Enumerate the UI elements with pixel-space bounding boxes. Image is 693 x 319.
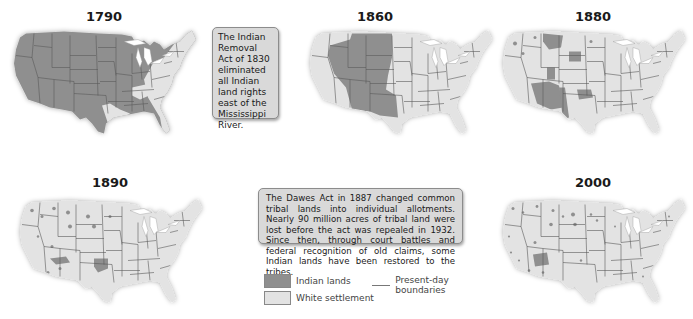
map-1880-us-map xyxy=(493,26,693,141)
map-1890-panel: 1890 xyxy=(10,165,210,315)
boundary-line-sample xyxy=(372,285,390,286)
map-1880-title: 1880 xyxy=(493,9,693,24)
map-1860-panel: 1860 xyxy=(300,4,500,149)
map-1790-title: 1790 xyxy=(4,9,204,24)
map-1790-panel: 1790 xyxy=(4,4,204,149)
map-2000-us-map xyxy=(493,195,693,310)
map-1860-us-map xyxy=(300,26,500,141)
dawes-act-callout: The Dawes Act in 1887 changed common tri… xyxy=(258,188,463,244)
indian-removal-act-callout: The Indian Removal Act of 1830 eliminate… xyxy=(212,27,279,119)
legend-item-white-settlement: White settlement xyxy=(264,291,374,305)
legend-label-boundaries: Present-day boundaries xyxy=(395,275,484,295)
map-1890-us-map xyxy=(10,195,210,310)
map-1790-us-map xyxy=(4,26,204,141)
legend-item-indian-lands: Indian lands xyxy=(264,274,351,288)
map-1880-panel: 1880 xyxy=(493,4,693,149)
map-1890-title: 1890 xyxy=(10,175,210,190)
legend-label-indian-lands: Indian lands xyxy=(296,276,351,286)
map-2000-title: 2000 xyxy=(493,175,693,190)
map-legend: Indian lands White settlement Present-da… xyxy=(264,274,484,314)
legend-item-boundaries: Present-day boundaries xyxy=(372,275,484,295)
white-settlement-swatch xyxy=(264,291,291,305)
map-1860-title: 1860 xyxy=(275,9,475,24)
map-2000-panel: 2000 xyxy=(493,165,693,315)
legend-label-white-settlement: White settlement xyxy=(296,293,374,303)
indian-lands-swatch xyxy=(264,274,291,288)
